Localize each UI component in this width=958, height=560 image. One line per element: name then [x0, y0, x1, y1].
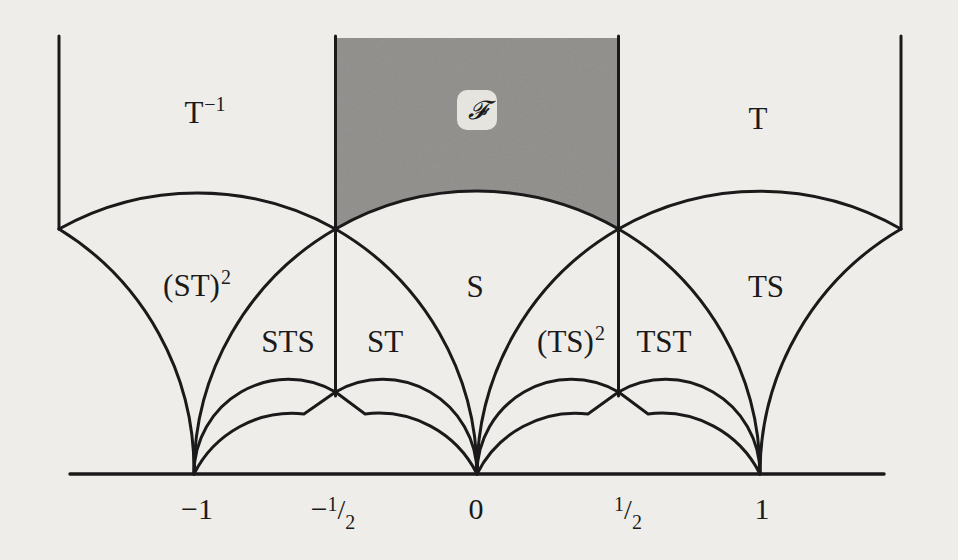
region-label-ts-squared: (TS)2: [537, 326, 605, 357]
tick-half: 1/2: [614, 492, 642, 526]
region-label-st: ST: [367, 326, 403, 357]
tick-zero: 0: [469, 492, 484, 526]
arc-scallop-4: [619, 392, 761, 474]
arc-unit-circle-centered-plus1: [619, 191, 902, 229]
label-sup: −1: [204, 93, 225, 115]
region-label-ts: TS: [748, 271, 784, 302]
tick-slash: /: [338, 494, 346, 525]
tick-denominator: 2: [345, 511, 355, 533]
arc-unit-circle-centered-minus1: [59, 193, 336, 229]
tick-text: −1: [181, 492, 213, 525]
label-base: S: [466, 269, 483, 304]
arc-scallop-3: [477, 392, 619, 474]
f-glyph: 𝓕: [468, 95, 487, 126]
arc-scallop-2: [336, 392, 478, 474]
label-sup: 2: [221, 266, 231, 288]
arc-right-outer: [760, 229, 901, 474]
label-base: TST: [636, 324, 691, 359]
tick-sign: −: [311, 492, 328, 525]
tick-denominator: 2: [632, 511, 642, 533]
modular-tessellation-figure: 𝓕 T−1 T (ST)2 S TS STS ST (TS)2 TST −1 −…: [0, 0, 958, 560]
arc-scallop-1: [194, 392, 336, 474]
arc-small-right-b: [619, 379, 761, 474]
label-base: (TS): [537, 324, 594, 359]
label-sup: 2: [595, 322, 605, 344]
region-label-tst: TST: [636, 326, 691, 357]
arc-left-outer: [59, 229, 194, 474]
arc-small-left-a: [194, 379, 336, 474]
label-base: T: [184, 95, 203, 130]
tick-text: 0: [469, 492, 484, 525]
region-label-t: T: [749, 103, 768, 134]
label-base: STS: [261, 324, 314, 359]
arc-from-rho-to-0: [336, 229, 478, 474]
label-base: ST: [367, 324, 403, 359]
tick-one: 1: [755, 492, 770, 526]
region-label-st-squared: (ST)2: [163, 270, 231, 301]
label-base: TS: [748, 269, 784, 304]
label-base: (ST): [163, 268, 220, 303]
arc-small-right-a: [477, 379, 619, 474]
fundamental-domain-label: 𝓕: [457, 90, 497, 130]
arc-small-left-b: [336, 379, 478, 474]
label-base: T: [749, 101, 768, 136]
tick-minus-one: −1: [181, 492, 213, 526]
region-label-t-inverse: T−1: [184, 97, 225, 128]
tick-numerator: 1: [614, 493, 624, 515]
region-label-sts: STS: [261, 326, 314, 357]
tick-numerator: 1: [328, 493, 338, 515]
tick-slash: /: [624, 494, 632, 525]
tick-minus-half: −1/2: [311, 492, 356, 526]
region-label-s: S: [466, 271, 483, 302]
tick-text: 1: [755, 492, 770, 525]
